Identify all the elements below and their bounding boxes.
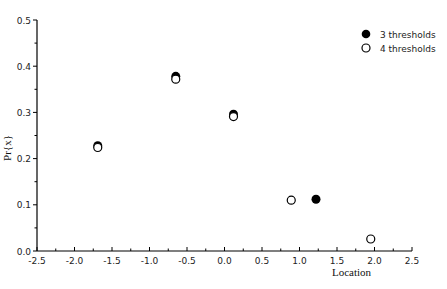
point-open-circle bbox=[172, 75, 180, 83]
axes: -2.5-2.0-1.5-1.0-0.50.00.51.01.52.02.50.… bbox=[17, 16, 419, 267]
x-tick-label: 0.0 bbox=[217, 256, 232, 266]
y-tick-label: 0.5 bbox=[17, 16, 31, 26]
x-tick-label: -1.0 bbox=[141, 256, 159, 266]
x-tick-label: 2.5 bbox=[405, 256, 419, 266]
legend-marker-open-circle bbox=[362, 44, 370, 52]
y-tick-label: 0.1 bbox=[17, 200, 31, 210]
legend-marker-filled-circle bbox=[362, 30, 371, 39]
x-axis-title: Location bbox=[332, 266, 372, 278]
point-open-circle bbox=[367, 235, 375, 243]
x-tick-label: 2.0 bbox=[367, 256, 382, 266]
x-tick-label: 1.0 bbox=[292, 256, 307, 266]
legend-label-4-thresholds: 4 thresholds bbox=[380, 44, 436, 54]
legend: 3 thresholds 4 thresholds bbox=[362, 30, 436, 54]
point-open-circle bbox=[230, 113, 238, 121]
point-open-circle bbox=[94, 144, 102, 152]
x-tick-label: 0.5 bbox=[255, 256, 269, 266]
x-tick-label: -2.5 bbox=[28, 256, 46, 266]
data-points bbox=[93, 72, 375, 243]
y-tick-label: 0.4 bbox=[17, 62, 32, 72]
point-open-circle bbox=[287, 196, 295, 204]
x-tick-label: -2.0 bbox=[66, 256, 84, 266]
x-tick-label: -1.5 bbox=[103, 256, 121, 266]
y-tick-label: 0.2 bbox=[17, 154, 31, 164]
point-filled-circle bbox=[312, 195, 321, 204]
legend-label-3-thresholds: 3 thresholds bbox=[380, 30, 436, 40]
y-tick-label: 0.3 bbox=[17, 108, 31, 118]
x-tick-label: -0.5 bbox=[178, 256, 196, 266]
scatter-chart: -2.5-2.0-1.5-1.0-0.50.00.51.01.52.02.50.… bbox=[0, 0, 447, 289]
y-tick-label: 0.0 bbox=[17, 247, 32, 257]
y-axis-title: Pr{x} bbox=[1, 135, 13, 161]
x-tick-label: 1.5 bbox=[330, 256, 344, 266]
